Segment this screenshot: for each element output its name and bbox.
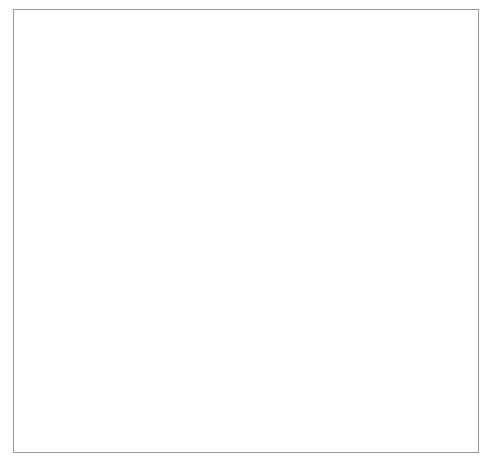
page-frame: [13, 9, 479, 453]
figure-container: [0, 0, 494, 464]
chart-panel-money-supply: [14, 223, 480, 451]
sp500-chart-svg: [14, 12, 480, 217]
money-supply-chart-svg: [14, 223, 480, 451]
chart-panel-sp500: [14, 12, 480, 217]
